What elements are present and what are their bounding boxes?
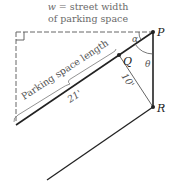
right-angle-marker [16,32,24,40]
label-width-10ft: 10' [119,71,136,89]
point-R-dot [151,105,155,109]
stall-line-lower [47,107,153,180]
angle-theta-arc [135,44,153,54]
parking-diagram: P Q R α θ Parking space length 21' 10' [0,0,176,194]
label-P: P [156,26,165,39]
label-alpha: α [132,34,138,44]
label-theta: θ [145,59,151,69]
label-R: R [156,102,165,115]
point-P-dot [151,30,155,34]
point-Q-dot [117,53,121,57]
label-Q: Q [123,55,132,68]
angle-alpha-arc [139,32,141,40]
